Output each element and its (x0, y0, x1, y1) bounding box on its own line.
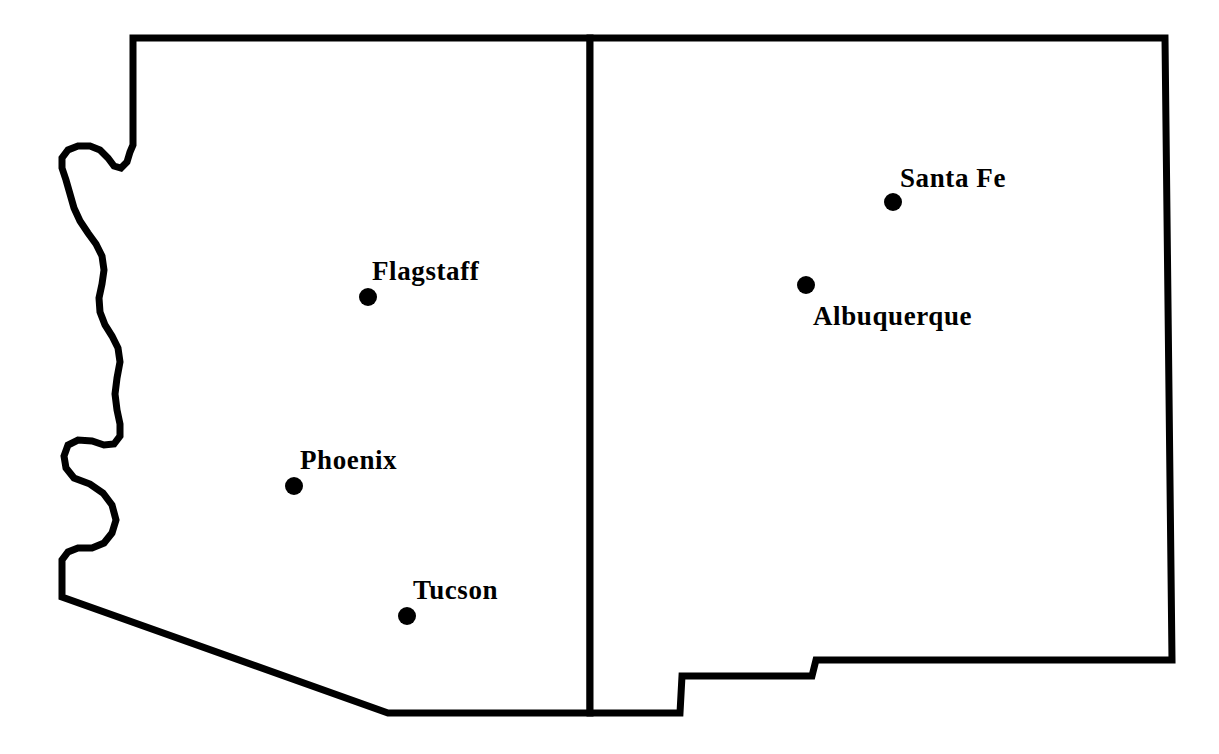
new-mexico-state-outline (590, 38, 1172, 713)
arizona-state-outline (62, 38, 590, 713)
city-dot-flagstaff[interactable] (359, 288, 377, 306)
city-label-flagstaff: Flagstaff (372, 258, 479, 285)
city-label-phoenix: Phoenix (300, 447, 397, 474)
city-label-albuquerque: Albuquerque (813, 303, 972, 330)
two-state-map-svg (0, 0, 1219, 754)
map-canvas: Flagstaff Phoenix Tucson Santa Fe Albuqu… (0, 0, 1219, 754)
city-dot-phoenix[interactable] (285, 477, 303, 495)
city-dot-tucson[interactable] (398, 607, 416, 625)
city-label-tucson: Tucson (413, 577, 498, 604)
city-dot-albuquerque[interactable] (797, 276, 815, 294)
city-dot-santa-fe[interactable] (884, 193, 902, 211)
city-label-santa-fe: Santa Fe (900, 165, 1006, 192)
